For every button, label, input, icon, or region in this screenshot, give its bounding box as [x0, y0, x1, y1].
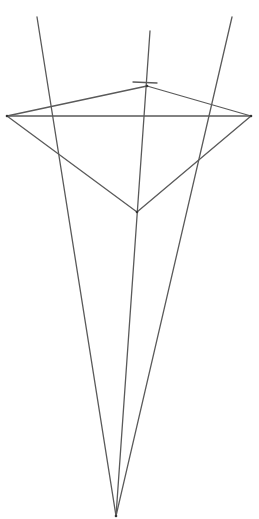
- left-ray: [37, 17, 116, 516]
- top-vertex-point: [146, 85, 149, 88]
- apex-point: [115, 515, 118, 518]
- segments-group: [7, 82, 251, 212]
- construction-diagram: [0, 0, 259, 519]
- top-tick: [133, 82, 157, 83]
- rays-group: [37, 17, 232, 516]
- bottom-vertex-point: [136, 211, 139, 214]
- upper-left-edge: [7, 86, 147, 116]
- left-vertex-point: [6, 115, 9, 118]
- upper-right-edge: [147, 86, 251, 116]
- diagram-canvas: [0, 0, 259, 519]
- right-vertex-point: [250, 115, 253, 118]
- points-group: [6, 85, 253, 518]
- lower-right-edge: [137, 116, 251, 212]
- lower-left-edge: [7, 116, 137, 212]
